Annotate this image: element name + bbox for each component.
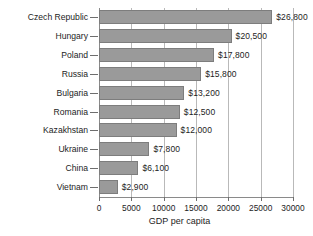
bar[interactable] [99, 86, 184, 100]
bar-row: $12,500 [99, 105, 293, 119]
category-tick [90, 17, 98, 18]
category-label: Ukraine [58, 142, 88, 156]
category-label: China [66, 161, 88, 175]
x-axis-tick-label: 15000 [184, 203, 207, 213]
category-tick [90, 112, 98, 113]
category-axis: Czech RepublicHungaryPolandRussiaBulgari… [0, 8, 99, 197]
category-label: Bulgaria [56, 86, 88, 100]
bar-row: $15,800 [99, 67, 293, 81]
bar-row: $17,800 [99, 48, 293, 62]
bar[interactable] [99, 142, 149, 156]
bar-value-label: $13,200 [184, 88, 219, 98]
bar[interactable] [99, 29, 232, 43]
x-axis-tick [261, 197, 262, 201]
bar-value-label: $15,800 [201, 69, 236, 79]
bar-value-label: $6,100 [138, 163, 169, 173]
bar-row: $26,800 [99, 10, 293, 24]
bar-row: $20,500 [99, 29, 293, 43]
x-axis-tick [164, 197, 165, 201]
bar-value-label: $17,800 [214, 50, 249, 60]
category-tick [90, 149, 98, 150]
category-label: Romania [54, 105, 88, 119]
bar[interactable] [99, 161, 138, 175]
bar-value-label: $12,500 [180, 107, 215, 117]
bar[interactable] [99, 48, 214, 62]
bar-chart: Czech RepublicHungaryPolandRussiaBulgari… [0, 0, 313, 236]
category-label: Vietnam [57, 180, 88, 194]
bar[interactable] [99, 123, 177, 137]
bar-value-label: $26,800 [272, 12, 307, 22]
x-axis-tick-label: 10000 [152, 203, 175, 213]
x-axis-tick-label: 25000 [249, 203, 272, 213]
x-axis-tick [293, 197, 294, 201]
bar-row: $6,100 [99, 161, 293, 175]
x-axis-tick-label: 20000 [217, 203, 240, 213]
category-label: Czech Republic [28, 10, 88, 24]
bar[interactable] [99, 180, 118, 194]
plot-area: $26,800$20,500$17,800$15,800$13,200$12,5… [99, 8, 293, 197]
bar-series: $26,800$20,500$17,800$15,800$13,200$12,5… [99, 8, 293, 197]
x-axis-tick-label: 30000 [281, 203, 304, 213]
category-tick [90, 168, 98, 169]
x-axis-tick [131, 197, 132, 201]
category-tick [90, 93, 98, 94]
x-axis-tick [99, 197, 100, 201]
bar[interactable] [99, 10, 272, 24]
bar-row: $12,000 [99, 123, 293, 137]
category-tick [90, 187, 98, 188]
bar-row: $2,900 [99, 180, 293, 194]
category-tick [90, 74, 98, 75]
bar-value-label: $7,800 [149, 144, 180, 154]
category-tick [90, 130, 98, 131]
x-axis-tick [228, 197, 229, 201]
bar[interactable] [99, 67, 201, 81]
x-axis-tick [196, 197, 197, 201]
x-axis-tick-label: 5000 [122, 203, 141, 213]
category-label: Poland [61, 48, 88, 62]
bar-value-label: $20,500 [232, 31, 267, 41]
bar-value-label: $2,900 [118, 182, 149, 192]
bar-row: $7,800 [99, 142, 293, 156]
category-label: Russia [62, 67, 88, 81]
bar[interactable] [99, 105, 180, 119]
bar-value-label: $12,000 [177, 125, 212, 135]
bar-row: $13,200 [99, 86, 293, 100]
x-axis-tick-label: 0 [97, 203, 102, 213]
category-tick [90, 55, 98, 56]
x-axis-title: GDP per capita [0, 216, 313, 226]
category-tick [90, 36, 98, 37]
category-label: Kazakhstan [43, 123, 88, 137]
category-label: Hungary [56, 29, 88, 43]
gridline [293, 8, 294, 197]
